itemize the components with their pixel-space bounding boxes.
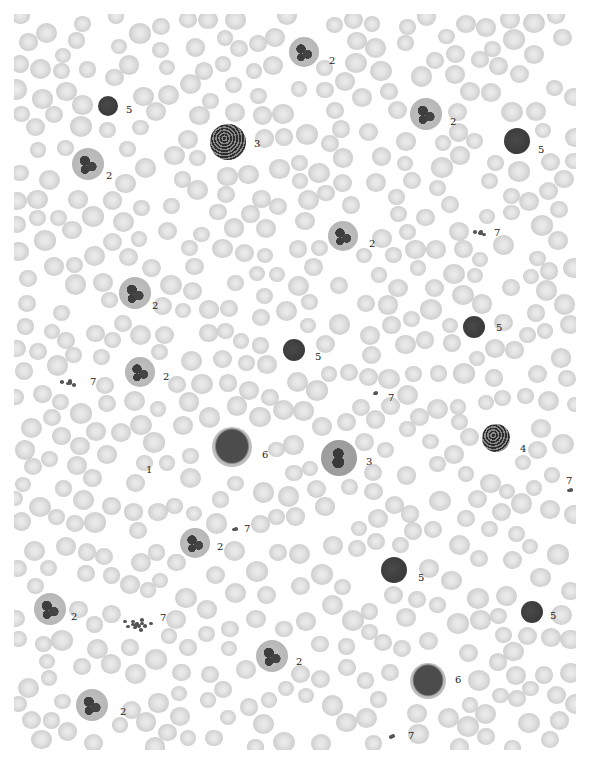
red-blood-cell	[300, 318, 316, 333]
red-blood-cell	[457, 716, 479, 737]
red-blood-cell	[44, 257, 64, 276]
red-blood-cell	[452, 285, 474, 306]
red-blood-cell	[523, 269, 539, 284]
neutrophil-cell	[289, 37, 319, 67]
lymphocyte-cell	[98, 96, 118, 116]
platelet	[482, 233, 486, 237]
red-blood-cell	[159, 60, 175, 75]
cell-label: 7	[90, 377, 96, 387]
red-blood-cell	[225, 77, 242, 93]
red-blood-cell	[283, 435, 303, 454]
red-blood-cell	[55, 480, 73, 497]
red-blood-cell	[215, 56, 232, 72]
platelet	[68, 379, 72, 383]
neutrophil-cell	[76, 689, 108, 721]
red-blood-cell	[14, 610, 25, 627]
red-blood-cell	[489, 57, 508, 75]
red-blood-cell	[238, 355, 255, 371]
red-blood-cell	[442, 318, 458, 333]
red-blood-cell	[392, 537, 409, 553]
red-blood-cell	[227, 275, 244, 291]
red-blood-cell	[202, 93, 219, 110]
red-blood-cell	[403, 172, 421, 189]
red-blood-cell	[269, 198, 287, 215]
red-blood-cell	[152, 18, 170, 35]
red-blood-cell	[272, 104, 293, 124]
cell-label: 5	[418, 573, 424, 583]
red-blood-cell	[496, 586, 517, 606]
red-blood-cell	[399, 19, 416, 35]
cell-label: 2	[450, 117, 456, 127]
red-blood-cell	[541, 628, 561, 647]
red-blood-cell	[550, 201, 569, 219]
red-blood-cell	[72, 95, 93, 115]
red-blood-cell	[15, 477, 31, 492]
red-blood-cell	[399, 224, 416, 240]
red-blood-cell	[449, 222, 469, 241]
red-blood-cell	[219, 374, 238, 392]
cell-label: 7	[244, 524, 250, 534]
red-blood-cell	[206, 566, 225, 584]
red-blood-cell	[560, 663, 576, 683]
red-blood-cell	[18, 295, 36, 312]
red-blood-cell	[182, 448, 199, 464]
cell-label: 2	[106, 171, 112, 181]
red-blood-cell	[221, 621, 238, 638]
red-blood-cell	[287, 372, 308, 392]
red-blood-cell	[186, 38, 205, 56]
red-blood-cell	[43, 409, 61, 426]
red-blood-cell	[547, 544, 569, 565]
red-blood-cell	[164, 146, 185, 166]
red-blood-cell	[554, 294, 575, 314]
red-blood-cell	[494, 390, 512, 407]
red-blood-cell	[547, 14, 565, 24]
red-blood-cell	[357, 672, 374, 688]
red-blood-cell	[152, 42, 169, 58]
red-blood-cell	[101, 292, 118, 308]
red-blood-cell	[429, 180, 446, 196]
cell-label: 2	[369, 239, 375, 249]
red-blood-cell	[66, 257, 83, 273]
red-blood-cell	[503, 188, 520, 204]
red-blood-cell	[359, 368, 378, 386]
lymphocyte-cell	[283, 339, 305, 361]
red-blood-cell	[178, 130, 198, 149]
red-blood-cell	[366, 173, 386, 192]
red-blood-cell	[563, 258, 576, 279]
red-blood-cell	[21, 418, 42, 438]
red-blood-cell	[286, 507, 305, 525]
red-blood-cell	[385, 247, 402, 263]
red-blood-cell	[54, 694, 71, 710]
red-blood-cell	[295, 212, 314, 230]
red-blood-cell	[33, 385, 52, 403]
red-blood-cell	[146, 102, 166, 121]
red-blood-cell	[276, 301, 297, 321]
red-blood-cell	[168, 376, 186, 393]
red-blood-cell	[235, 244, 254, 262]
red-blood-cell	[278, 486, 300, 506]
red-blood-cell	[541, 153, 560, 171]
red-blood-cell	[431, 157, 453, 178]
red-blood-cell	[14, 696, 27, 712]
red-blood-cell	[540, 500, 560, 519]
red-blood-cell	[416, 209, 434, 227]
red-blood-cell	[526, 480, 542, 495]
red-blood-cell	[24, 541, 45, 561]
red-blood-cell	[166, 610, 186, 629]
red-blood-cell	[217, 186, 235, 203]
red-blood-cell	[505, 341, 523, 358]
red-blood-cell	[221, 641, 237, 656]
red-blood-cell	[74, 16, 91, 32]
red-blood-cell	[333, 174, 352, 192]
red-blood-cell	[269, 267, 286, 283]
red-blood-cell	[79, 61, 96, 77]
red-blood-cell	[535, 123, 551, 138]
red-blood-cell	[195, 62, 213, 80]
red-blood-cell	[133, 87, 154, 107]
platelet	[473, 230, 477, 234]
red-blood-cell	[336, 713, 356, 732]
red-blood-cell	[186, 506, 202, 522]
red-blood-cell	[544, 467, 560, 483]
red-blood-cell	[246, 610, 265, 628]
red-blood-cell	[77, 565, 95, 582]
